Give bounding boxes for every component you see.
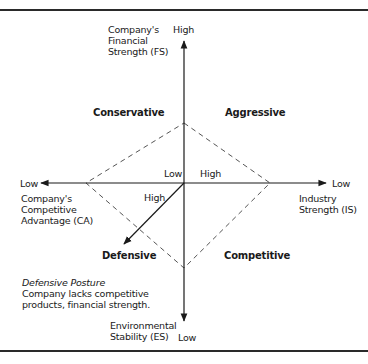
competitive-advantage-label: Company's Competitive Advantage (CA) (21, 193, 93, 226)
center-high-label: High (200, 168, 221, 179)
ca-line-2: Competitive (21, 204, 93, 215)
ca-low-label: Low (20, 178, 38, 189)
industry-strength-label: Industry Strength (IS) (299, 193, 357, 215)
environmental-stability-label: Environmental Stability (ES) (110, 320, 177, 342)
defensive-posture-note: Defensive Posture Company lacks competit… (22, 277, 150, 310)
es-low-label: Low (178, 332, 196, 343)
ca-line-1: Company's (21, 193, 93, 204)
fs-high-label: High (173, 24, 194, 35)
is-low-label: Low (332, 178, 350, 189)
financial-strength-label: Company's Financial Strength (FS) (108, 24, 168, 57)
quadrant-aggressive: Aggressive (225, 107, 285, 118)
fs-line-1: Company's (108, 24, 168, 35)
fs-line-2: Financial (108, 35, 168, 46)
note-line-1: Company lacks competitive (22, 288, 150, 299)
es-line-2: Stability (ES) (110, 331, 177, 342)
center-low-label: Low (164, 168, 182, 179)
quadrant-competitive: Competitive (224, 250, 290, 261)
fs-line-3: Strength (FS) (108, 46, 168, 57)
is-line-2: Strength (IS) (299, 204, 357, 215)
es-line-1: Environmental (110, 320, 177, 331)
strategy-diamond (86, 123, 270, 268)
quadrant-defensive: Defensive (102, 250, 156, 261)
diagonal-high-label: High (144, 192, 165, 203)
note-title: Defensive Posture (22, 277, 150, 288)
quadrant-conservative: Conservative (93, 107, 164, 118)
note-line-2: products, financial strength. (22, 299, 150, 310)
is-line-1: Industry (299, 193, 357, 204)
ca-line-3: Advantage (CA) (21, 215, 93, 226)
